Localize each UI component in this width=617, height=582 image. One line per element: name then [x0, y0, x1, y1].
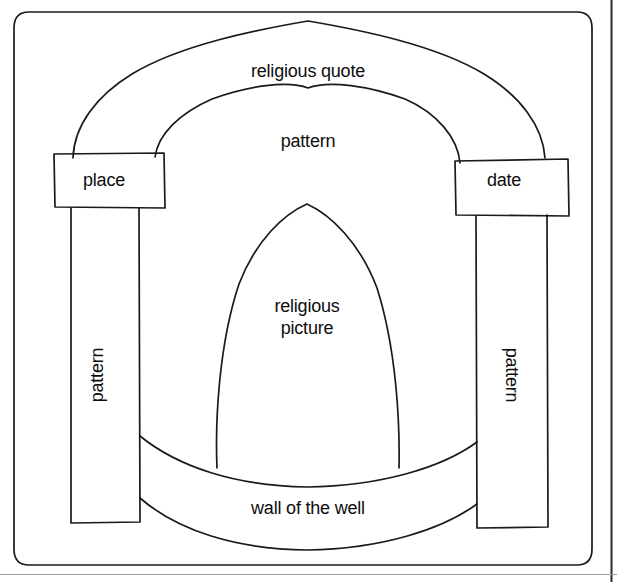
label-religious-picture-line2: picture — [281, 318, 334, 338]
label-wall-of-the-well: wall of the well — [251, 498, 365, 518]
label-religious-picture-line1: religious — [274, 296, 339, 316]
label-date: date — [487, 170, 521, 190]
label-place: place — [83, 170, 125, 190]
label-religious-quote: religious quote — [251, 61, 365, 81]
label-pattern-top: pattern — [281, 131, 336, 151]
label-pattern-left-column: pattern — [87, 348, 107, 403]
well-wall-line-drawing — [0, 0, 617, 582]
label-pattern-right-column: pattern — [502, 348, 522, 403]
diagram-canvas: religious quote pattern place date relig… — [0, 0, 617, 582]
